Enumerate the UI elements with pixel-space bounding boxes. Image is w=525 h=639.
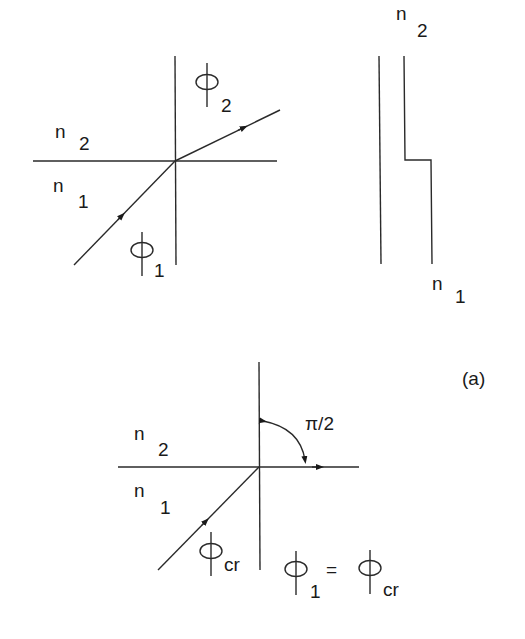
- index-profile-diagram: n 2 n 1: [379, 3, 466, 307]
- equation-lhs-subscript: 1: [310, 581, 321, 602]
- medium-top-subscript: 2: [79, 133, 90, 154]
- critical-angle-subscript: cr: [224, 554, 241, 575]
- incident-ray: [74, 161, 175, 265]
- profile-bottom-symbol: n: [432, 273, 443, 294]
- equation-equals: =: [326, 559, 337, 580]
- axis-line: [379, 56, 381, 264]
- medium-top-symbol: n: [55, 121, 66, 142]
- normal-line: [259, 362, 260, 570]
- medium-top-symbol: n: [134, 423, 145, 444]
- phi-icon: [131, 232, 153, 276]
- incident-ray: [158, 467, 259, 570]
- phi-icon: [196, 63, 218, 107]
- profile-top-symbol: n: [396, 3, 407, 24]
- medium-bottom-symbol: n: [134, 480, 145, 501]
- medium-bottom-subscript: 1: [78, 191, 89, 212]
- incident-ray-arrow: [118, 216, 122, 220]
- panel-label: (a): [462, 368, 485, 389]
- refracted-ray-arrow: [238, 128, 244, 131]
- profile-bottom-subscript: 1: [455, 286, 466, 307]
- equation-rhs-subscript: cr: [383, 579, 400, 600]
- phi-icon: [200, 532, 222, 576]
- right-angle-arc: [263, 421, 305, 460]
- phi-icon: [359, 550, 381, 594]
- medium-top-subscript: 2: [158, 439, 169, 460]
- critical-angle-equation: 1 = cr: [285, 550, 400, 602]
- right-angle-label: π/2: [305, 413, 334, 434]
- incident-ray-arrow: [202, 521, 206, 525]
- refracted-ray: [175, 110, 280, 161]
- incident-angle-subscript: 1: [154, 260, 165, 281]
- critical-angle-diagram: π/2 n 2 n 1 cr 1 = cr: [118, 362, 400, 602]
- refraction-diagram: n 2 n 1 2 1: [33, 56, 280, 281]
- medium-bottom-symbol: n: [53, 175, 64, 196]
- profile-top-subscript: 2: [417, 20, 428, 41]
- medium-bottom-subscript: 1: [160, 497, 171, 518]
- step-profile: [404, 56, 432, 264]
- phi-icon: [285, 551, 307, 595]
- refracted-angle-subscript: 2: [221, 95, 232, 116]
- optics-figure: n 2 n 1 2 1 n 2 n 1 (a): [0, 0, 525, 639]
